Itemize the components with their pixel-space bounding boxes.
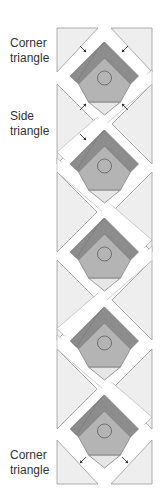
arrow-icon: [80, 46, 86, 52]
arrow-icon: [122, 46, 128, 52]
quilt-strip-diagram: [0, 0, 163, 500]
arrow-icon: [122, 457, 128, 463]
arrow-icon: [80, 104, 86, 110]
arrow-icon: [80, 457, 86, 463]
